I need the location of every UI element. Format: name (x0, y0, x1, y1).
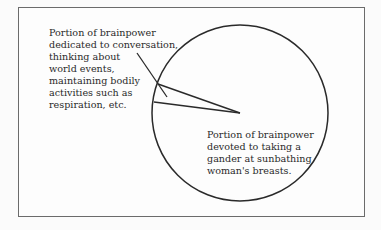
large-slice-label: Portion of brainpower devoted to taking … (207, 129, 317, 177)
small-slice-label: Portion of brainpower dedicated to conve… (49, 27, 179, 111)
